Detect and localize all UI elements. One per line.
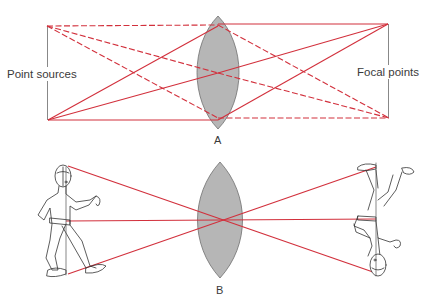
panel-b [38,162,414,278]
panel-a-label: A [214,134,221,146]
focal-points-label: Focal points [356,65,420,79]
panel-a [47,16,389,129]
point-sources-label: Point sources [6,67,78,81]
lens-diagram [0,0,435,304]
panel-b-label: B [216,284,223,296]
